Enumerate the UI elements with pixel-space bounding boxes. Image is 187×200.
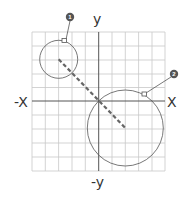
square-marker-1 (62, 39, 67, 43)
y-axis-negative-label: -y (91, 175, 104, 189)
x-axis-positive-label: X (167, 95, 177, 109)
dashed-connector-line (59, 59, 126, 128)
coordinate-diagram: 1 2 (0, 0, 187, 200)
y-axis-positive-label: y (93, 12, 101, 26)
x-axis-negative-label: -X (14, 95, 28, 109)
square-marker-2 (142, 92, 147, 96)
